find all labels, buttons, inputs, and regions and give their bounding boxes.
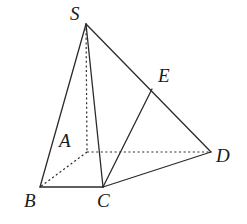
vertex-label-D: D	[216, 146, 230, 165]
edge-SB	[40, 24, 86, 187]
edge-SA-dashed	[86, 24, 87, 152]
edge-SC	[86, 24, 103, 187]
edge-CE	[103, 89, 152, 187]
edge-SD	[86, 24, 211, 152]
vertex-label-B: B	[24, 191, 36, 210]
vertex-label-E: E	[158, 66, 170, 85]
edge-AB-dashed	[40, 152, 87, 187]
vertex-label-S: S	[70, 4, 80, 23]
geometry-figure: S E D A C B	[0, 0, 247, 224]
figure-canvas	[0, 0, 247, 224]
edge-CD	[103, 152, 211, 187]
vertex-label-A: A	[59, 131, 71, 150]
vertex-label-C: C	[97, 191, 110, 210]
